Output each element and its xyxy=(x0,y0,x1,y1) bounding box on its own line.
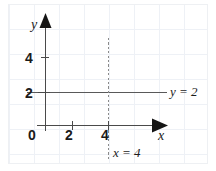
x-axis-label: x xyxy=(158,129,164,143)
equation-label-x-equals-4: x = 4 xyxy=(113,146,141,159)
y-axis-label: y xyxy=(31,18,37,32)
x-tick-label-2: 2 xyxy=(65,128,73,142)
x-tick-label-0: 0 xyxy=(28,128,36,142)
x-tick-label-4: 4 xyxy=(101,128,109,142)
y-tick-label-2: 2 xyxy=(25,86,33,100)
y-axis-arrowhead-icon xyxy=(40,13,52,28)
y-tick-label-4: 4 xyxy=(25,51,33,65)
equation-label-y-equals-2: y = 2 xyxy=(170,85,198,98)
coordinate-plane-figure: y x 4 2 0 2 4 y = 2 x = 4 xyxy=(0,0,216,171)
